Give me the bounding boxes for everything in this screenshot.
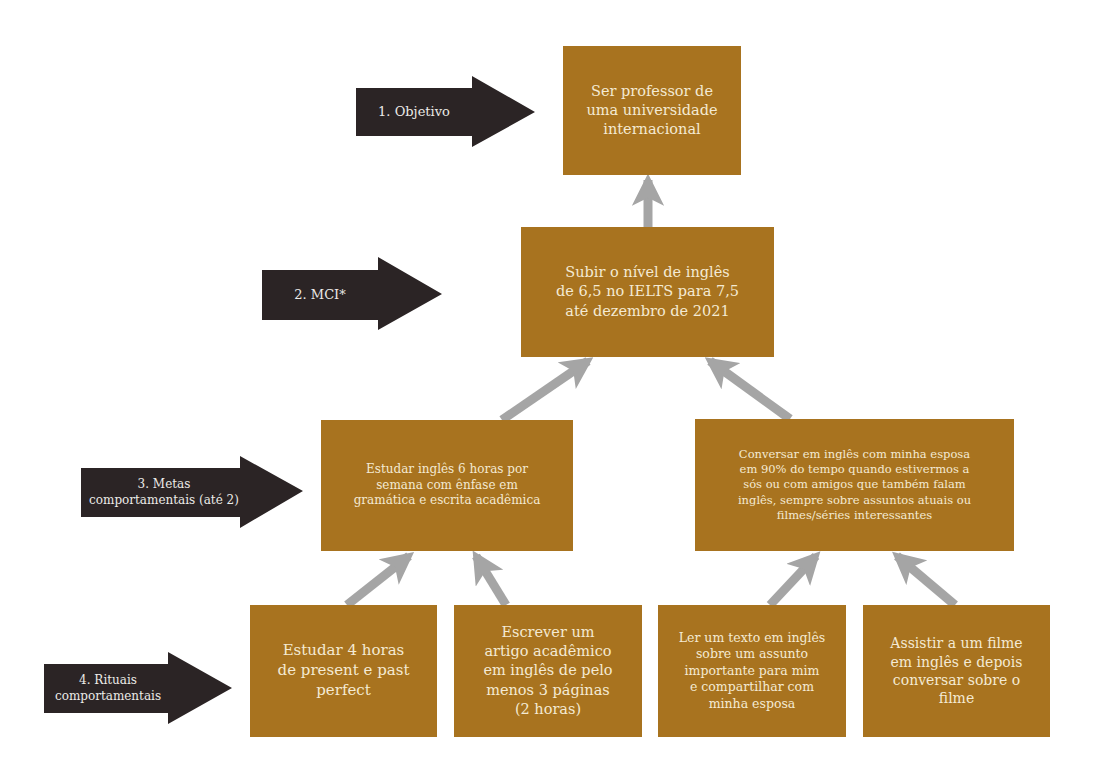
goal-text: Estudar inglês 6 horas por semana com ên… xyxy=(354,462,541,509)
level-label-mci: 2. MCI* xyxy=(262,270,378,320)
connector-ritual2-to-goal1 xyxy=(476,556,506,605)
goal-box-conversation: Conversar em inglês com minha esposa em … xyxy=(695,419,1014,551)
ritual-box-article: Escrever um artigo acadêmico em inglês d… xyxy=(454,605,642,737)
goal-text: Conversar em inglês com minha esposa em … xyxy=(738,447,971,523)
ritual-text: Escrever um artigo acadêmico em inglês d… xyxy=(483,623,612,719)
goal-box-study: Estudar inglês 6 horas por semana com ên… xyxy=(321,420,573,551)
level-label-metas: 3. Metas comportamentais (até 2) xyxy=(78,468,250,517)
ritual-box-movie: Assistir a um filme em inglês e depois c… xyxy=(863,605,1050,737)
connector-ritual3-to-goal2 xyxy=(770,556,816,605)
level-label-objetivo: 1. Objetivo xyxy=(356,88,472,136)
ritual-text: Estudar 4 horas de present e past perfec… xyxy=(278,641,410,700)
ritual-text: Assistir a um filme em inglês e depois c… xyxy=(890,634,1022,708)
ritual-text: Ler um texto em inglês sobre um assunto … xyxy=(679,630,826,713)
ritual-box-grammar: Estudar 4 horas de present e past perfec… xyxy=(250,605,437,737)
level-label-rituais: 4. Rituais comportamentais xyxy=(44,664,172,713)
mci-text: Subir o nível de inglês de 6,5 no IELTS … xyxy=(556,263,739,320)
ritual-box-reading: Ler um texto em inglês sobre um assunto … xyxy=(658,605,846,737)
connector-ritual4-to-goal2 xyxy=(897,556,955,605)
connector-goal1-to-mci xyxy=(502,361,588,420)
connector-ritual1-to-goal1 xyxy=(347,556,409,605)
objective-text: Ser professor de uma universidade intern… xyxy=(586,82,717,139)
objective-box: Ser professor de uma universidade intern… xyxy=(563,46,741,175)
connector-goal2-to-mci xyxy=(710,361,790,419)
mci-box: Subir o nível de inglês de 6,5 no IELTS … xyxy=(521,227,774,357)
